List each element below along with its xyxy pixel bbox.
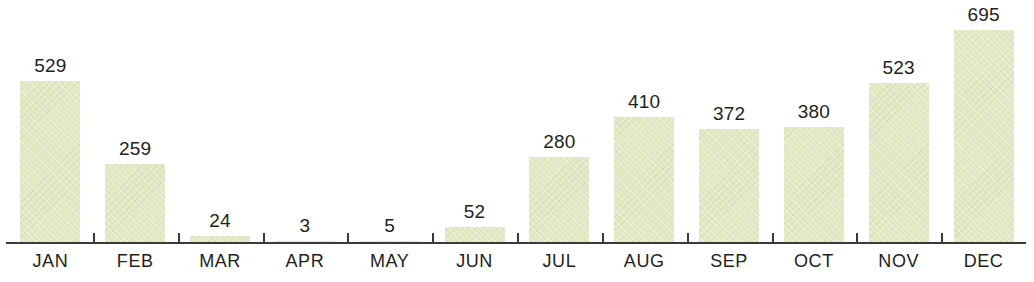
bar-oct[interactable] [784,127,844,243]
bar-group-oct: 380 [772,0,857,243]
bar-group-sep: 372 [687,0,772,243]
axis-tick-2 [178,233,180,243]
category-label-oct: OCT [772,248,857,274]
category-label-aug: AUG [602,248,687,274]
axis-tick-11 [941,233,943,243]
x-axis-line [6,242,1026,244]
bar-aug[interactable] [614,117,674,243]
bar-jul[interactable] [529,157,589,243]
plot-area: 529259243552280410372380523695 [8,0,1026,243]
bar-value-label-jan: 529 [34,56,66,75]
category-label-may: MAY [347,248,432,274]
bar-value-label-mar: 24 [209,211,231,230]
bar-value-label-nov: 523 [883,58,915,77]
category-label-jun: JUN [432,248,517,274]
bar-group-feb: 259 [93,0,178,243]
bar-jun[interactable] [445,227,505,243]
bar-value-label-dec: 695 [967,5,999,24]
category-label-mar: MAR [178,248,263,274]
bar-group-jul: 280 [517,0,602,243]
category-label-nov: NOV [856,248,941,274]
bar-jan[interactable] [20,81,80,243]
bar-value-label-feb: 259 [119,139,151,158]
bar-group-apr: 3 [263,0,348,243]
axis-tick-7 [602,233,604,243]
bar-nov[interactable] [869,83,929,243]
axis-tick-8 [687,233,689,243]
category-label-dec: DEC [941,248,1026,274]
bar-feb[interactable] [105,164,165,243]
axis-tick-9 [772,233,774,243]
bar-group-mar: 24 [178,0,263,243]
bar-group-jan: 529 [8,0,93,243]
axis-tick-4 [347,233,349,243]
bar-value-label-oct: 380 [798,102,830,121]
bar-group-aug: 410 [602,0,687,243]
bar-value-label-may: 5 [384,216,395,235]
bar-chart: 529259243552280410372380523695 JANFEBMAR… [0,0,1034,282]
bar-value-label-jul: 280 [543,132,575,151]
bar-sep[interactable] [699,129,759,243]
category-label-jul: JUL [517,248,602,274]
bar-group-nov: 523 [856,0,941,243]
x-axis-category-labels: JANFEBMARAPRMAYJUNJULAUGSEPOCTNOVDEC [8,248,1026,278]
bar-value-label-jun: 52 [464,202,486,221]
axis-tick-10 [856,233,858,243]
bar-dec[interactable] [954,30,1014,243]
bar-group-may: 5 [347,0,432,243]
bar-group-dec: 695 [941,0,1026,243]
axis-tick-5 [432,233,434,243]
category-label-apr: APR [263,248,348,274]
axis-tick-3 [263,233,265,243]
axis-tick-6 [517,233,519,243]
bar-value-label-sep: 372 [713,104,745,123]
bar-group-jun: 52 [432,0,517,243]
category-label-feb: FEB [93,248,178,274]
axis-tick-1 [93,233,95,243]
category-label-jan: JAN [8,248,93,274]
category-label-sep: SEP [687,248,772,274]
bar-value-label-apr: 3 [300,216,311,235]
bar-value-label-aug: 410 [628,92,660,111]
